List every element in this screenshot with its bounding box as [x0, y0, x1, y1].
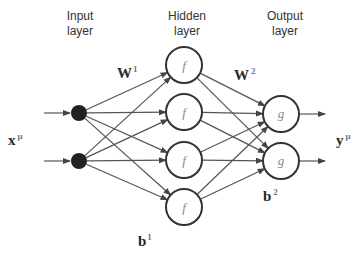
- edge-input-hidden: [87, 112, 166, 113]
- output-layer-title-line1: Output: [267, 9, 304, 23]
- edge-hidden-output: [200, 169, 264, 200]
- neural-network-diagram: Input layer Hidden layer Output layer ff…: [0, 0, 363, 256]
- edge-input-hidden: [86, 116, 167, 152]
- output-layer-title-line2: layer: [272, 24, 298, 38]
- bias2-label: b2: [263, 187, 278, 204]
- edge-hidden-output: [202, 112, 263, 113]
- input-layer-title-line1: Input: [67, 9, 94, 23]
- output-activation-label: g: [278, 153, 285, 168]
- weights2-label: W2: [234, 66, 256, 83]
- hidden-layer-title-line1: Hidden: [168, 9, 206, 23]
- edge-input-hidden: [86, 120, 167, 158]
- edge-input-hidden: [87, 160, 166, 161]
- edge-input-hidden: [85, 118, 171, 195]
- hidden-layer-title-line2: layer: [174, 24, 200, 38]
- input-node: [71, 153, 87, 169]
- input-node: [71, 105, 87, 121]
- edge-hidden-output: [200, 73, 265, 106]
- edge-input-hidden: [85, 77, 171, 155]
- output-activation-label: g: [278, 106, 285, 121]
- output-vector-label: yμ: [336, 131, 351, 148]
- connections: [44, 72, 325, 199]
- weights1-label: W1: [117, 64, 138, 81]
- input-vector-label: xμ: [8, 131, 23, 148]
- bias1-label: b1: [138, 232, 152, 249]
- input-layer-title-line2: layer: [67, 24, 93, 38]
